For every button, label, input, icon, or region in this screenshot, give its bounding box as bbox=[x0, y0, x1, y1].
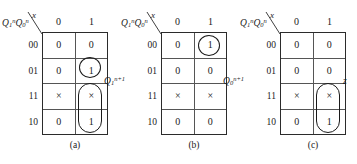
kmap-a-row-header-01: 01 bbox=[16, 58, 40, 84]
kmap-b-cell-01-1: 0 bbox=[195, 59, 227, 84]
kmap-b-caption: (b) bbox=[161, 140, 227, 150]
kmap-c-row-header-00: 00 bbox=[254, 32, 278, 58]
kmap-c-cell-00-1: 0 bbox=[314, 33, 346, 58]
kmap-c: Q1nQ0n x 0 1 00 01 11 10 0 0 0 0 × bbox=[238, 0, 357, 164]
kmap-a-row-00: 0 0 bbox=[43, 33, 107, 59]
kmap-a-cell-10-1: 1 bbox=[76, 110, 108, 135]
kmap-b-col-variable-label: x bbox=[151, 11, 155, 20]
kmap-a-row-headers: 00 01 11 10 bbox=[16, 32, 40, 135]
kmap-a-row-header-11: 11 bbox=[16, 84, 40, 110]
kmap-b-row-header-10: 10 bbox=[135, 109, 159, 135]
kmap-a-row-header-00: 00 bbox=[16, 32, 40, 58]
kmap-b-cell-11-0: × bbox=[162, 84, 195, 109]
kmap-a-column-headers: 0 1 bbox=[42, 14, 108, 30]
kmap-c-row-11: × × bbox=[281, 84, 345, 110]
kmap-b-row-headers: 00 01 11 10 bbox=[135, 32, 159, 135]
kmap-b-cell-00-1: 1 bbox=[195, 33, 227, 58]
kmap-a-col-header-0: 0 bbox=[42, 14, 75, 30]
kmap-c-caption: (c) bbox=[280, 140, 346, 150]
kmap-b-col-header-0: 0 bbox=[161, 14, 194, 30]
kmap-b-cell-01-0: 0 bbox=[162, 59, 195, 84]
kmap-c-corner-header: Q1nQ0n x bbox=[240, 12, 280, 34]
kmap-a-corner-header: Q1nQ0n x bbox=[2, 12, 42, 34]
kmap-c-cell-01-0: 0 bbox=[281, 59, 314, 84]
kmap-a-cell-10-0: 0 bbox=[43, 110, 76, 135]
kmap-b-cell-10-1: 0 bbox=[195, 110, 227, 135]
kmap-b-cell-11-1: × bbox=[195, 84, 227, 109]
kmap-c-cell-10-0: 0 bbox=[281, 110, 314, 135]
kmap-b-row-00: 0 1 bbox=[162, 33, 226, 59]
kmap-a-col-variable-label: x bbox=[32, 11, 36, 20]
kmap-c-cell-01-1: 0 bbox=[314, 59, 346, 84]
kmap-b-cell-10-0: 0 bbox=[162, 110, 195, 135]
kmap-c-cell-10-1: 1 bbox=[314, 110, 346, 135]
kmap-c-col-header-1: 1 bbox=[313, 14, 346, 30]
kmap-b-cell-00-0: 0 bbox=[162, 33, 195, 58]
kmap-c-row-header-11: 11 bbox=[254, 84, 278, 110]
kmap-a-grid: 0 0 0 1 × × 0 1 bbox=[42, 32, 108, 135]
kmap-c-grid: 0 0 0 0 × × 0 1 bbox=[280, 32, 346, 135]
kmap-a-cell-01-1: 1 bbox=[76, 59, 108, 84]
kmap-c-output-label: z bbox=[343, 76, 347, 87]
kmap-c-col-variable-label: x bbox=[270, 11, 274, 20]
kmap-a-cell-01-0: 0 bbox=[43, 59, 76, 84]
kmap-c-row-10: 0 1 bbox=[281, 110, 345, 135]
kmap-a-col-header-1: 1 bbox=[75, 14, 108, 30]
kmap-b-row-01: 0 0 bbox=[162, 59, 226, 85]
kmap-b-row-header-00: 00 bbox=[135, 32, 159, 58]
kmap-a-row-10: 0 1 bbox=[43, 110, 107, 135]
kmap-c-column-headers: 0 1 bbox=[280, 14, 346, 30]
kmap-a-cell-00-0: 0 bbox=[43, 33, 76, 58]
kmap-c-row-00: 0 0 bbox=[281, 33, 345, 59]
kmap-c-cell-00-0: 0 bbox=[281, 33, 314, 58]
kmap-c-row-header-10: 10 bbox=[254, 109, 278, 135]
kmap-b-row-header-11: 11 bbox=[135, 84, 159, 110]
kmap-b-grid: 0 1 0 0 × × 0 0 bbox=[161, 32, 227, 135]
kmap-a-caption: (a) bbox=[42, 140, 108, 150]
kmap-a-cell-11-1: × bbox=[76, 84, 108, 109]
kmap-a-cell-11-0: × bbox=[43, 84, 76, 109]
kmap-a: Q1nQ0n x 0 1 00 01 11 10 0 0 0 1 × bbox=[0, 0, 119, 164]
kmap-c-col-header-0: 0 bbox=[280, 14, 313, 30]
kmap-b-col-header-1: 1 bbox=[194, 14, 227, 30]
kmap-a-row-variable-label: Q1nQ0n bbox=[2, 18, 29, 29]
kmap-a-row-01: 0 1 bbox=[43, 59, 107, 85]
kmap-b-row-header-01: 01 bbox=[135, 58, 159, 84]
karnaugh-map-figure-row: Q1nQ0n x 0 1 00 01 11 10 0 0 0 1 × bbox=[0, 0, 357, 164]
kmap-b-column-headers: 0 1 bbox=[161, 14, 227, 30]
kmap-c-row-01: 0 0 bbox=[281, 59, 345, 85]
kmap-b: Q1nQ0n x 0 1 00 01 11 10 0 1 0 0 × bbox=[119, 0, 238, 164]
kmap-c-cell-11-1: × bbox=[314, 84, 346, 109]
kmap-a-row-11: × × bbox=[43, 84, 107, 110]
kmap-b-corner-header: Q1nQ0n x bbox=[121, 12, 161, 34]
kmap-b-row-variable-label: Q1nQ0n bbox=[121, 18, 148, 29]
kmap-c-row-header-01: 01 bbox=[254, 58, 278, 84]
kmap-c-row-headers: 00 01 11 10 bbox=[254, 32, 278, 135]
kmap-a-cell-00-1: 0 bbox=[76, 33, 108, 58]
kmap-b-row-11: × × bbox=[162, 84, 226, 110]
kmap-b-row-10: 0 0 bbox=[162, 110, 226, 135]
kmap-c-cell-11-0: × bbox=[281, 84, 314, 109]
kmap-c-row-variable-label: Q1nQ0n bbox=[240, 18, 267, 29]
kmap-a-row-header-10: 10 bbox=[16, 109, 40, 135]
